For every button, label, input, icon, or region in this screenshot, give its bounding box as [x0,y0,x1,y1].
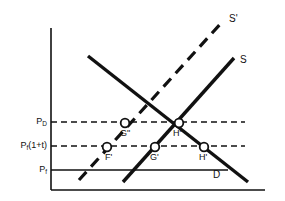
point-h-prime [200,143,209,152]
axis-label-pf: Pf [2,165,47,174]
axis-label-pf-sub: f [45,168,47,175]
point-label-h-double-prime: H" [173,129,183,138]
axis-label-pf-tax-sub: f [26,144,28,151]
point-label-h-prime: H' [199,153,207,162]
point-label-g-prime: G' [150,153,159,162]
axis-label-pf-tax: Pf(1+t) [0,141,47,150]
point-g-double-prime [121,119,130,128]
point-h-double-prime [175,119,184,128]
curve-label-d: D [213,170,220,180]
point-f-prime [103,143,112,152]
curve-label-s-prime: S' [229,14,238,24]
demand-curve [88,56,248,182]
axis-label-pd: PD [2,117,47,126]
point-g-prime [151,143,160,152]
supply-demand-tariff-figure: PD Pf(1+t) Pf S' S D G" F' G' H" H' [0,0,285,201]
axis-label-pf-tax-suffix: (1+t) [28,140,47,150]
point-label-f-prime: F' [105,153,112,162]
curve-label-s: S [240,55,247,65]
point-label-g-double-prime: G" [120,129,130,138]
axis-label-pd-sub: D [42,120,47,127]
